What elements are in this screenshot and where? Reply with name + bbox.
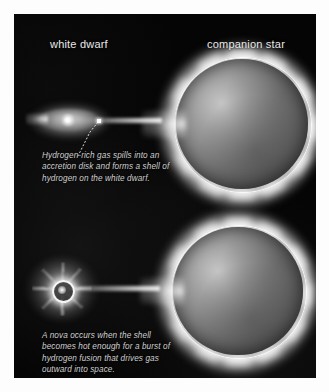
caption-accretion-line-1: Hydrogen-rich gas spills into an	[42, 150, 192, 161]
gas-stream-flare-bottom	[140, 277, 184, 305]
companion-star-top	[176, 59, 308, 189]
companion-star-bottom	[173, 227, 303, 355]
caption-accretion-line-3: hydrogen on the white dwarf.	[42, 173, 192, 184]
caption-nova-line-2: becomes hot enough for a burst of	[42, 341, 192, 352]
nova-diagram-figure: white dwarf companion star Hydrogen-rich…	[0, 0, 329, 392]
gas-stream-flare-top	[142, 110, 186, 138]
caption-nova-line-1: A nova occurs when the shell	[42, 330, 192, 341]
label-white-dwarf: white dwarf	[50, 38, 108, 50]
label-companion-star: companion star	[207, 38, 285, 50]
white-dwarf-bottom	[58, 286, 66, 294]
leader-line-top	[14, 104, 134, 154]
caption-accretion: Hydrogen-rich gas spills into an accreti…	[42, 150, 192, 184]
caption-nova-line-3: hydrogen fusion that drives gas	[42, 353, 192, 364]
caption-accretion-line-2: accretion disk and forms a shell of	[42, 161, 192, 172]
space-panel: white dwarf companion star Hydrogen-rich…	[14, 14, 316, 378]
caption-nova-line-4: outward into space.	[42, 364, 192, 375]
caption-nova: A nova occurs when the shell becomes hot…	[42, 330, 192, 376]
leader-endpoint-marker-top	[97, 119, 101, 123]
